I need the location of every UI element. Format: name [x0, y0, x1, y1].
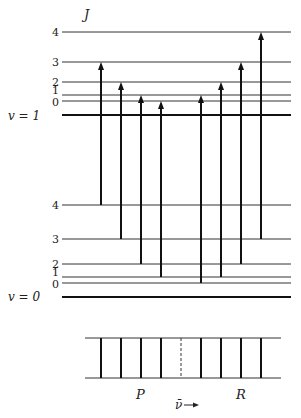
j-label-v1-j4: 4 — [52, 26, 59, 39]
wavenumber-arrow-icon — [184, 403, 199, 408]
j-label-v1-j2: 2 — [52, 76, 59, 89]
j-label-v0-j0: 0 — [52, 278, 59, 291]
transition-arrow-p-3 — [118, 82, 124, 239]
p-branch-label: P — [135, 387, 145, 402]
transition-arrow-p-1 — [158, 101, 164, 277]
j-label-v1-j0: 0 — [52, 96, 59, 109]
j-label-v0-j4: 4 — [52, 199, 59, 212]
transition-arrow-r-2 — [238, 62, 244, 264]
j-label-v0-j2: 2 — [52, 258, 59, 271]
wavenumber-label: ν̄ — [175, 398, 182, 412]
transition-arrow-r-1 — [218, 82, 224, 277]
r-branch-label: R — [235, 387, 246, 402]
v0-label: v = 0 — [8, 290, 40, 304]
j-axis-label: J — [81, 7, 90, 22]
transition-arrow-r-3 — [258, 32, 264, 239]
transition-arrow-r-0 — [198, 95, 204, 283]
j-label-v1-j3: 3 — [52, 56, 59, 69]
spectrum: P R ν̄ — [85, 338, 281, 412]
v1-label: v = 1 — [8, 109, 40, 123]
transition-arrow-p-4 — [98, 62, 104, 205]
j-label-v0-j3: 3 — [52, 233, 59, 246]
energy-level-diagram: J v = 1 v = 0 0123401234 P R ν̄ — [0, 0, 301, 418]
